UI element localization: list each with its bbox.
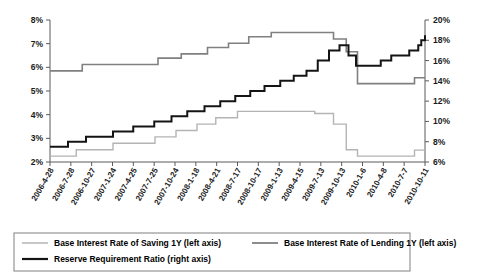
interest-rate-chart: 2%3%4%5%6%7%8% 6%8%10%12%14%16%18%20% 20… [0, 0, 481, 280]
legend-label: Reserve Requirement Ratio (right axis) [54, 254, 211, 264]
chart-container: 2%3%4%5%6%7%8% 6%8%10%12%14%16%18%20% 20… [0, 0, 481, 280]
left-axis-tick-label: 8% [31, 15, 44, 25]
left-axis: 2%3%4%5%6%7%8% [31, 15, 50, 167]
left-axis-tick-label: 2% [31, 157, 44, 167]
left-axis-tick-label: 3% [31, 133, 44, 143]
left-axis-tick-label: 4% [31, 110, 44, 120]
right-axis-tick-label: 8% [433, 137, 446, 147]
right-axis-tick-label: 14% [433, 76, 450, 86]
right-axis: 6%8%10%12%14%16%18%20% [425, 15, 450, 167]
plot-background [50, 20, 425, 162]
left-axis-tick-label: 7% [31, 39, 44, 49]
chart-legend: Base Interest Rate of Saving 1Y (left ax… [14, 233, 456, 271]
right-axis-tick-label: 6% [433, 157, 446, 167]
right-axis-tick-label: 16% [433, 56, 450, 66]
plot-area: 2%3%4%5%6%7%8% 6%8%10%12%14%16%18%20% 20… [30, 15, 451, 206]
right-axis-tick-label: 18% [433, 35, 450, 45]
right-axis-tick-label: 12% [433, 96, 450, 106]
x-axis: 2006-4-282006-7-282006-10-272007-1-24200… [30, 162, 431, 206]
right-axis-tick-label: 20% [433, 15, 450, 25]
right-axis-tick-label: 10% [433, 116, 450, 126]
legend-label: Base Interest Rate of Lending 1Y (left a… [284, 238, 456, 248]
left-axis-tick-label: 5% [31, 86, 44, 96]
left-axis-tick-label: 6% [31, 62, 44, 72]
legend-label: Base Interest Rate of Saving 1Y (left ax… [54, 238, 221, 248]
